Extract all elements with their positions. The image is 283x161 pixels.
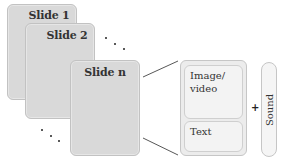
text-region: Text: [184, 121, 243, 152]
slide-n-title: Slide n: [71, 66, 139, 79]
image-video-region: Image/ video: [184, 65, 243, 119]
sound-track: Sound: [261, 62, 277, 157]
ellipsis-dot: [123, 48, 125, 50]
ellipsis-dot: [41, 129, 43, 131]
ellipsis-dot: [114, 43, 116, 45]
slide-2-title: Slide 2: [40, 29, 94, 42]
ellipsis-dot: [58, 140, 60, 142]
text-label: Text: [190, 125, 240, 138]
sound-label: Sound: [264, 93, 275, 125]
slide-1-title: Slide 1: [22, 9, 76, 22]
plus-sign: +: [251, 102, 259, 113]
ellipsis-dot: [50, 135, 52, 137]
slide-detail-panel: Image/ video Text: [180, 60, 247, 156]
slide-n-card: Slide n: [70, 60, 140, 156]
image-video-label: Image/ video: [190, 69, 240, 95]
connector-bottom: [143, 138, 178, 155]
connector-top: [143, 61, 178, 77]
ellipsis-dot: [105, 37, 107, 39]
